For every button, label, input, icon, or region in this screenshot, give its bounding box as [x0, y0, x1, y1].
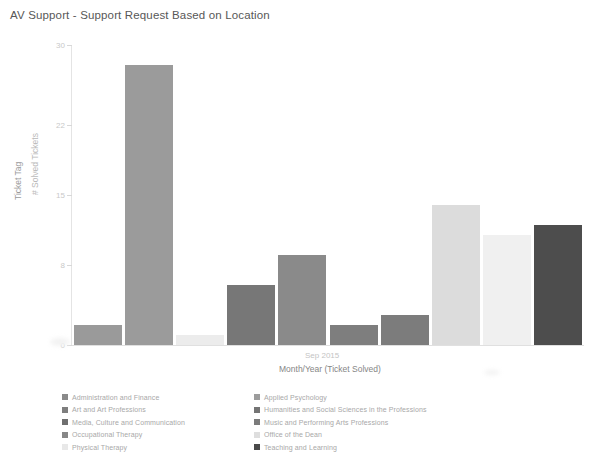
bar[interactable] — [381, 315, 429, 345]
legend-item-label: Humanities and Social Sciences in the Pr… — [264, 406, 426, 413]
y-axis-tick-label: 15 — [56, 191, 65, 200]
legend: Administration and FinanceArt and Art Pr… — [62, 391, 582, 453]
page-title: AV Support - Support Request Based on Lo… — [10, 9, 270, 21]
legend-swatch-icon — [254, 394, 260, 400]
bar[interactable] — [125, 65, 173, 345]
bar-series — [72, 45, 584, 345]
x-axis-title: Month/Year (Ticket Solved) — [279, 364, 381, 374]
legend-column-right: Applied PsychologyHumanities and Social … — [254, 391, 426, 454]
legend-item-label: Occupational Therapy — [72, 431, 142, 438]
y-axis-tick-mark — [67, 345, 72, 346]
legend-item[interactable]: Music and Performing Arts Professions — [254, 416, 426, 428]
legend-item-label: Media, Culture and Communication — [72, 419, 185, 426]
bar[interactable] — [278, 255, 326, 345]
legend-item-label: Administration and Finance — [72, 394, 159, 401]
bar[interactable] — [330, 325, 378, 345]
legend-swatch-icon — [254, 444, 260, 450]
legend-swatch-icon — [254, 407, 260, 413]
bar[interactable] — [432, 205, 480, 345]
legend-swatch-icon — [62, 419, 68, 425]
y-axis-title: # Solved Tickets — [30, 133, 40, 195]
legend-swatch-icon — [62, 407, 68, 413]
legend-column-left: Administration and FinanceArt and Art Pr… — [62, 391, 185, 454]
legend-item-label: Applied Psychology — [264, 394, 327, 401]
scan-artifact — [50, 338, 70, 346]
legend-item[interactable]: Applied Psychology — [254, 391, 426, 403]
legend-item-label: Music and Performing Arts Professions — [264, 419, 388, 426]
scan-artifact — [484, 370, 500, 375]
plot-area: 08152230 — [72, 45, 584, 345]
bar[interactable] — [74, 325, 122, 345]
legend-item[interactable]: Teaching and Learning — [254, 441, 426, 453]
legend-swatch-icon — [62, 432, 68, 438]
legend-item[interactable]: Art and Art Professions — [62, 404, 185, 416]
legend-item-label: Art and Art Professions — [72, 406, 146, 413]
bar[interactable] — [227, 285, 275, 345]
legend-item[interactable]: Media, Culture and Communication — [62, 416, 185, 428]
bar[interactable] — [483, 235, 531, 345]
legend-item-label: Office of the Dean — [264, 431, 322, 438]
legend-item[interactable]: Physical Therapy — [62, 441, 185, 453]
legend-item[interactable]: Office of the Dean — [254, 429, 426, 441]
legend-swatch-icon — [62, 444, 68, 450]
x-axis-tick-label: Sep 2015 — [305, 351, 339, 360]
bar[interactable] — [534, 225, 582, 345]
ticket-tag-axis-title: Ticket Tag — [13, 162, 23, 200]
legend-item-label: Teaching and Learning — [264, 444, 337, 451]
legend-item[interactable]: Humanities and Social Sciences in the Pr… — [254, 404, 426, 416]
y-axis-tick-label: 22 — [56, 121, 65, 130]
legend-swatch-icon — [254, 432, 260, 438]
bar[interactable] — [176, 335, 224, 345]
y-axis-tick-label: 8 — [61, 261, 65, 270]
legend-swatch-icon — [62, 394, 68, 400]
legend-item[interactable]: Occupational Therapy — [62, 429, 185, 441]
legend-swatch-icon — [254, 419, 260, 425]
x-axis-line — [71, 345, 584, 346]
legend-item-label: Physical Therapy — [72, 444, 127, 451]
y-axis-tick-label: 30 — [56, 41, 65, 50]
legend-item[interactable]: Administration and Finance — [62, 391, 185, 403]
